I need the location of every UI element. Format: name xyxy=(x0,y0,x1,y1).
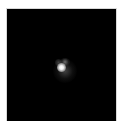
sky-image-frame xyxy=(6,8,117,121)
source-core xyxy=(57,63,66,72)
